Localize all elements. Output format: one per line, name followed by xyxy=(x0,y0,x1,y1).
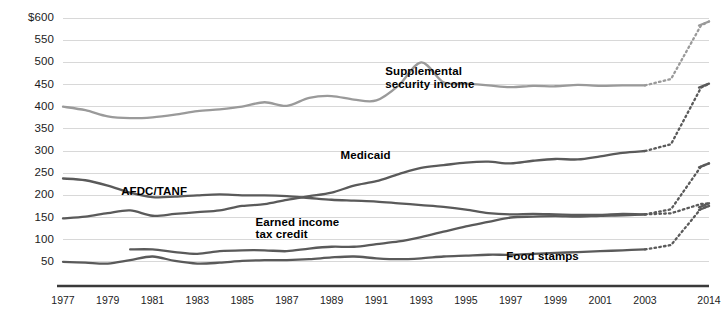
y-axis-tick-label: 500 xyxy=(0,55,54,67)
series-line-solid xyxy=(130,214,645,253)
x-axis-tick-label: 1987 xyxy=(275,294,298,306)
x-axis-tick-label: 1999 xyxy=(544,294,567,306)
x-axis-tick-label: 2014 xyxy=(697,294,720,306)
series-line-projected xyxy=(645,22,709,86)
x-axis-tick-label: 2001 xyxy=(589,294,612,306)
y-axis-tick-label: 100 xyxy=(0,233,54,245)
x-axis-tick-label: 1985 xyxy=(230,294,253,306)
y-axis-tick-label: $600 xyxy=(0,11,54,23)
x-axis-tick-label: 1981 xyxy=(141,294,164,306)
y-axis-tick-label: 350 xyxy=(0,122,54,134)
y-axis-tick-label: 300 xyxy=(0,144,54,156)
series-label-food-stamps: Food stamps xyxy=(506,250,579,263)
series-line-endcap xyxy=(699,163,709,167)
y-axis-tick-label: 200 xyxy=(0,188,54,200)
series-lines xyxy=(63,22,709,264)
gridlines xyxy=(63,18,709,262)
series-label-medicaid: Medicaid xyxy=(341,149,391,162)
x-axis-tick-label: 1983 xyxy=(186,294,209,306)
x-axis-tick-label: 1977 xyxy=(51,294,74,306)
x-axis-tick-label: 1995 xyxy=(454,294,477,306)
y-axis-tick-label: 400 xyxy=(0,100,54,112)
y-axis-tick-label: 150 xyxy=(0,211,54,223)
x-axis-tick-label: 1997 xyxy=(499,294,522,306)
series-label-earned-income-tax-credit: Earned income tax credit xyxy=(256,216,340,241)
series-line-solid xyxy=(63,62,645,118)
x-axis-tick-label: 1991 xyxy=(365,294,388,306)
x-axis-tick-label: 1989 xyxy=(320,294,343,306)
x-axis-tick-label: 1979 xyxy=(96,294,119,306)
y-axis-tick-label: 50 xyxy=(0,255,54,267)
x-axis-tick-label: 2003 xyxy=(633,294,656,306)
x-axis-tick-label: 1993 xyxy=(409,294,432,306)
y-axis-tick-label: 250 xyxy=(0,166,54,178)
series-line-projected xyxy=(645,84,709,151)
series-label-supplemental-security-income: Supplemental security income xyxy=(385,65,474,90)
y-axis-tick-label: 450 xyxy=(0,78,54,90)
y-axis-tick-label: 550 xyxy=(0,33,54,45)
series-label-afdc-tanf: AFDC/TANF xyxy=(121,185,187,198)
